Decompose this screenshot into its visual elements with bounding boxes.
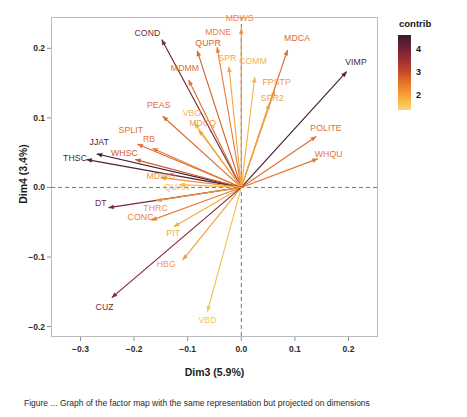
- variable-label: HBG: [157, 259, 176, 269]
- arrow-head: [311, 137, 316, 141]
- arrow-head: [87, 158, 92, 162]
- variable-arrow: [241, 159, 317, 188]
- variable-arrow: [241, 78, 256, 188]
- arrow-head: [136, 159, 141, 163]
- variable-label: DT: [95, 198, 107, 208]
- variable-label: MDCA: [284, 33, 310, 43]
- legend-colorbar: [398, 35, 411, 110]
- variable-arrow: [241, 104, 269, 187]
- arrow-head: [216, 48, 220, 53]
- arrow-shaft: [241, 137, 316, 188]
- arrow-head: [138, 144, 143, 148]
- legend-tick-label: 2: [416, 90, 421, 100]
- arrow-shaft: [174, 187, 241, 226]
- variable-arrow: [207, 187, 241, 311]
- variable-label: SPLIT: [119, 125, 144, 135]
- y-tick-label: −0.2: [3, 322, 45, 332]
- figure-root: −0.3−0.2−0.10.00.10.20.20.10.0−0.1−0.2CO…: [0, 0, 467, 417]
- variable-label: VBG: [183, 108, 202, 118]
- variable-label: PIT: [166, 228, 180, 238]
- variable-label: WHQU: [315, 149, 343, 159]
- variable-label: COND: [134, 28, 160, 38]
- figure-caption: Figure ... Graph of the factor map with …: [24, 398, 454, 415]
- variable-label: MDWS: [226, 13, 254, 23]
- variable-label: QUPR: [195, 38, 221, 48]
- variable-label: CUZ: [96, 302, 114, 312]
- variable-arrow: [241, 137, 316, 188]
- variable-label: PEAS: [147, 100, 171, 110]
- variable-label: MDNE: [205, 27, 231, 37]
- legend-tick-list: 432: [416, 35, 456, 110]
- variable-label: MDWO: [146, 171, 175, 181]
- y-tick-label: −0.1: [3, 252, 45, 262]
- x-axis-title: Dim3 (5.9%): [51, 366, 378, 378]
- variable-label: RB: [143, 134, 155, 144]
- arrow-head: [252, 78, 256, 83]
- x-tick-label: −0.3: [60, 344, 100, 354]
- arrow-head: [284, 50, 288, 55]
- arrow-head: [266, 104, 270, 109]
- variable-label: CONC: [128, 212, 154, 222]
- x-tick-label: 0.2: [329, 344, 369, 354]
- variable-label: THSC: [63, 153, 87, 163]
- arrow-shaft: [241, 104, 269, 187]
- arrow-head: [312, 159, 317, 163]
- variable-label: JJAT: [89, 137, 109, 147]
- arrow-head: [189, 80, 193, 85]
- legend-body: 432: [398, 35, 464, 110]
- arrow-shaft: [189, 80, 242, 187]
- legend-title: contrib: [399, 18, 464, 29]
- variable-arrow: [239, 29, 243, 188]
- contrib-legend: contrib 432: [398, 18, 464, 110]
- x-tick-label: −0.1: [168, 344, 208, 354]
- arrow-head: [109, 205, 114, 209]
- variable-label: VIMP: [345, 57, 367, 67]
- variable-label: WHSC: [111, 148, 138, 158]
- arrow-head: [239, 29, 243, 34]
- arrow-shaft: [241, 78, 254, 188]
- x-tick-label: 0.0: [221, 344, 261, 354]
- arrow-head: [227, 67, 231, 72]
- variable-arrow: [174, 187, 241, 226]
- variable-label: MDMM: [171, 63, 199, 73]
- legend-tick-label: 3: [416, 67, 421, 77]
- x-tick-label: 0.1: [275, 344, 315, 354]
- variable-label: COMM: [239, 56, 267, 66]
- variable-label: FPSTP: [262, 77, 291, 87]
- arrow-head: [162, 40, 166, 45]
- arrow-head: [97, 153, 102, 157]
- legend-tick-label: 4: [416, 44, 421, 54]
- variable-label: VBD: [198, 315, 216, 325]
- variable-label: SPR2: [261, 93, 284, 103]
- arrow-shaft: [208, 187, 242, 311]
- y-tick-label: 0.2: [3, 43, 45, 53]
- x-tick-label: −0.2: [114, 344, 154, 354]
- arrow-head: [174, 222, 179, 226]
- arrow-head: [197, 51, 201, 56]
- variable-label: POLITE: [310, 123, 342, 133]
- y-axis-title: Dim4 (3.4%): [17, 104, 29, 244]
- variable-label: SPR: [218, 53, 236, 63]
- variable-arrow: [189, 80, 242, 187]
- arrow-shaft: [241, 159, 317, 188]
- variable-arrow: [227, 67, 241, 187]
- variable-label: QUAN: [164, 182, 190, 192]
- variable-label: MDCQ: [189, 118, 216, 128]
- arrow-head: [207, 306, 211, 311]
